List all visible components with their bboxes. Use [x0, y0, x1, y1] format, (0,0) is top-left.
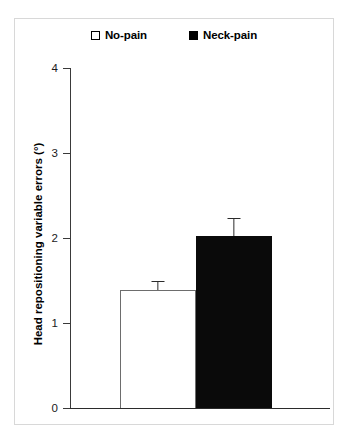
y-tick-3: [63, 153, 70, 154]
error-bar-cap: [228, 218, 241, 220]
error-bar-stem: [233, 218, 234, 237]
error-bar-neck-pain: [196, 218, 272, 237]
bar-no-pain: [120, 290, 196, 408]
y-tick-1: [63, 323, 70, 324]
y-tick-label-1: 1: [18, 317, 58, 329]
chart-plot-area: Head repositioning variable errors (°) 4…: [0, 0, 348, 446]
y-tick-4: [63, 68, 70, 69]
y-tick-label-2: 2: [18, 232, 58, 244]
y-tick-label-3: 3: [18, 147, 58, 159]
y-tick-label-0: 0: [18, 402, 58, 414]
bar-neck-pain: [196, 236, 272, 408]
error-bar-cap: [152, 281, 165, 283]
y-axis-line: [70, 68, 71, 409]
error-bar-no-pain: [120, 281, 196, 290]
y-tick-label-4: 4: [18, 62, 58, 74]
y-tick-2: [63, 238, 70, 239]
y-tick-0: [63, 408, 70, 409]
